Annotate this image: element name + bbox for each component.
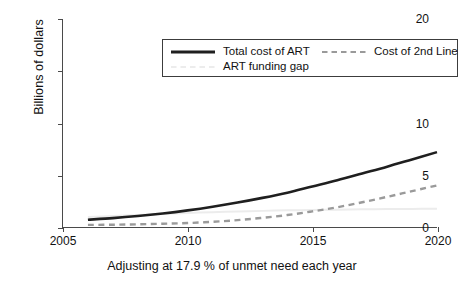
solid-line-swatch xyxy=(170,47,216,57)
x-tick-mark xyxy=(313,227,314,232)
x-tick-mark xyxy=(438,227,439,232)
x-tick-label: 2010 xyxy=(175,234,202,248)
dashed-line-swatch xyxy=(321,47,367,57)
legend-entry-total-cost: Total cost of ART xyxy=(163,44,319,59)
y-axis-title: Billions of dollars xyxy=(32,0,46,162)
faint-line-swatch xyxy=(170,62,216,72)
x-axis-title: Adjusting at 17.9 % of unmet need each y… xyxy=(0,259,464,273)
legend-label-second-line: Cost of 2nd Line xyxy=(374,45,458,58)
x-tick-mark xyxy=(188,227,189,232)
chart-figure: Billions of dollars 05101520 20052010201… xyxy=(0,0,464,287)
chart-legend: Total cost of ART Cost of 2nd Line xyxy=(162,39,458,77)
series-line-cost-of-2nd-line xyxy=(88,185,437,225)
x-tick-mark xyxy=(63,227,64,232)
x-tick-label: 2020 xyxy=(425,234,452,248)
legend-spacer xyxy=(320,59,457,74)
plot-area: 05101520 2005201020152020 Total cost of … xyxy=(62,19,437,228)
x-tick-label: 2005 xyxy=(50,234,77,248)
legend-entry-second-line: Cost of 2nd Line xyxy=(319,44,457,59)
legend-entry-funding-gap: ART funding gap xyxy=(163,59,320,74)
legend-label-total-cost: Total cost of ART xyxy=(223,45,310,58)
legend-row-2: ART funding gap xyxy=(163,59,457,74)
legend-row-1: Total cost of ART Cost of 2nd Line xyxy=(163,44,457,59)
legend-label-funding-gap: ART funding gap xyxy=(223,60,309,73)
x-tick-label: 2015 xyxy=(300,234,327,248)
